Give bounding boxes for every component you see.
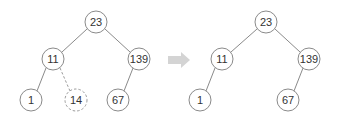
svg-text:23: 23 [90,16,102,28]
node-1: 1 [20,89,42,111]
edge-23-11 [62,29,87,52]
bst-deletion-diagram: 23 11 139 1 14 67 23 [0,0,339,122]
node-11: 11 [211,48,233,70]
edge-139-67 [124,68,133,91]
right-arrow-icon [168,52,190,68]
svg-text:67: 67 [282,94,294,106]
svg-text:139: 139 [300,53,318,65]
svg-text:11: 11 [47,53,58,65]
edge-11-1 [206,68,215,91]
edge-11-14-removed [60,68,70,91]
node-139: 139 [128,48,150,70]
svg-text:139: 139 [130,53,148,65]
svg-text:11: 11 [216,53,227,65]
svg-text:67: 67 [112,94,124,106]
node-1: 1 [189,89,211,111]
svg-text:1: 1 [197,94,203,106]
node-67: 67 [277,89,299,111]
node-23: 23 [85,11,107,33]
tree-after: 23 11 139 1 67 [189,11,320,111]
svg-text:14: 14 [70,94,82,106]
edge-23-139 [275,29,300,52]
node-139: 139 [298,48,320,70]
edge-23-139 [105,29,130,52]
node-67: 67 [107,89,129,111]
tree-before: 23 11 139 1 14 67 [20,11,150,111]
node-14-removed: 14 [65,89,87,111]
edge-23-11 [231,29,257,52]
svg-text:23: 23 [260,16,272,28]
node-11: 11 [42,48,64,70]
node-23: 23 [255,11,277,33]
edge-11-1 [37,68,46,91]
svg-text:1: 1 [28,94,34,106]
edge-139-67 [294,68,303,91]
